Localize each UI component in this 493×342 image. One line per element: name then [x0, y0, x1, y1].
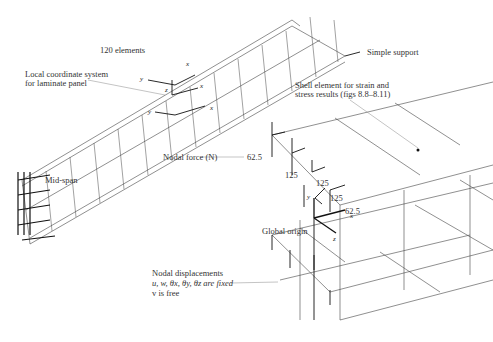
force-value-2: 125	[285, 170, 298, 180]
local-coordinate-arrows	[148, 75, 205, 115]
label-nodal-disp-3: v is free	[152, 288, 179, 298]
axis-label-y-global: y	[307, 193, 310, 201]
label-global-origin: Global origin	[262, 226, 308, 236]
axis-label-x-local-2: x	[210, 104, 213, 112]
fe-model-diagram: 120 elements Simple support Local coordi…	[0, 0, 493, 342]
diagram-drawing	[0, 0, 493, 342]
label-nodal-disp-1: Nodal displacements	[152, 268, 223, 278]
detail-mesh	[272, 82, 493, 320]
axis-label-x-top: x	[186, 60, 189, 68]
nodal-force-arrows	[272, 122, 345, 320]
axis-label-y-left: y	[140, 75, 143, 83]
label-mid-span: Mid-span	[45, 175, 78, 185]
leader-lines	[88, 80, 418, 283]
label-elements: 120 elements	[100, 45, 145, 55]
label-nodal-force: Nodal force (N)	[163, 152, 217, 162]
label-local-coord-2: for laminate panel	[25, 78, 87, 88]
label-simple-support: Simple support	[367, 47, 419, 57]
force-value-3: 125	[316, 178, 329, 188]
force-value-4: 125	[330, 193, 343, 203]
label-nodal-disp-2: u, w, θx, θy, θz are fixed	[152, 278, 233, 288]
force-value-1: 62.5	[247, 152, 262, 162]
axis-label-z-local: z	[165, 86, 168, 94]
axis-label-z-global: z	[333, 235, 336, 243]
shell-element-marker	[417, 149, 420, 152]
axis-label-y-local: y	[148, 108, 151, 116]
beam-mesh	[22, 17, 345, 244]
axis-label-x-local: x	[200, 82, 203, 90]
axis-label-x-global: x	[350, 212, 353, 220]
label-shell-element-2: stress results (figs 8.8–8.11)	[295, 89, 390, 99]
